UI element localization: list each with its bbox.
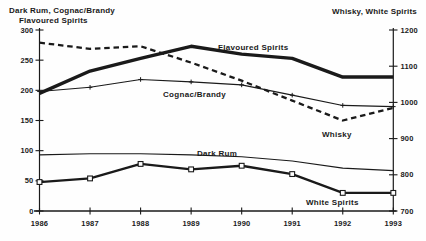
- plot-area: 0501001502002503007008009001000110012001…: [20, 26, 418, 228]
- marker-plus-cognac-brandy: [239, 83, 244, 88]
- chart-container: Dark Rum, Cognac/Brandy Flavoured Spirit…: [0, 0, 426, 241]
- left-axis-title-line1: Dark Rum, Cognac/Brandy: [9, 6, 115, 15]
- marker-plus-cognac-brandy: [88, 85, 93, 90]
- x-axis-tick-label: 1991: [283, 219, 301, 228]
- left-axis-tick-label: 200: [20, 86, 33, 95]
- line-chart: Dark Rum, Cognac/Brandy Flavoured Spirit…: [0, 0, 426, 241]
- marker-square-white-spirits: [37, 180, 42, 185]
- series-line-flavoured-spirits: [40, 46, 394, 93]
- series-label-dark-rum: Dark Rum: [197, 149, 237, 158]
- x-axis-tick-label: 1988: [132, 219, 150, 228]
- left-axis-tick-label: 0: [29, 207, 33, 216]
- x-axis-tick-label: 1986: [31, 219, 49, 228]
- marker-plus-cognac-brandy: [290, 93, 295, 98]
- x-axis-tick-label: 1990: [233, 219, 251, 228]
- right-axis-tick-label: 1000: [401, 98, 419, 107]
- left-axis-title-line2: Flavoured Spirits: [19, 16, 88, 25]
- marker-square-white-spirits: [340, 191, 345, 196]
- right-axis-tick-label: 800: [401, 170, 414, 179]
- marker-square-white-spirits: [189, 167, 194, 172]
- right-axis-tick-label: 700: [401, 207, 414, 216]
- series-label-flavoured-spirits: Flavoured Spirits: [218, 43, 289, 52]
- left-axis-tick-label: 250: [20, 56, 33, 65]
- right-axis-tick-label: 1100: [401, 62, 418, 71]
- x-axis-tick-label: 1992: [334, 219, 352, 228]
- marker-square-white-spirits: [239, 163, 244, 168]
- marker-square-white-spirits: [290, 172, 295, 177]
- left-axis-tick-label: 50: [25, 176, 34, 185]
- left-axis-tick-label: 100: [20, 146, 33, 155]
- marker-plus-cognac-brandy: [138, 77, 143, 82]
- right-axis-title: Whisky, White Spirits: [332, 7, 417, 16]
- series-label-cognac-brandy: Cognac/Brandy: [163, 90, 226, 99]
- x-axis-tick-label: 1987: [81, 219, 99, 228]
- x-axis-tick-label: 1993: [385, 219, 403, 228]
- series-label-white-spirits: White Spirits: [306, 198, 359, 207]
- series-label-whisky: Whisky: [322, 130, 352, 139]
- left-axis-tick-label: 300: [20, 26, 33, 35]
- right-axis-tick-label: 900: [401, 134, 414, 143]
- marker-square-white-spirits: [138, 162, 143, 167]
- marker-plus-cognac-brandy: [340, 103, 345, 108]
- marker-square-white-spirits: [391, 191, 396, 196]
- series-line-whisky: [40, 43, 394, 121]
- left-axis-tick-label: 150: [20, 116, 33, 125]
- x-axis-tick-label: 1989: [182, 219, 200, 228]
- marker-square-white-spirits: [88, 176, 93, 181]
- right-axis-tick-label: 1200: [401, 26, 419, 35]
- marker-plus-cognac-brandy: [189, 80, 194, 85]
